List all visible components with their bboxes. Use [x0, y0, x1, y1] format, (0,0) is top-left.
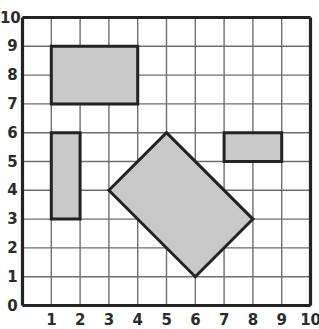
x-axis-tick-label-4: 4	[133, 313, 143, 328]
x-axis-tick-label-6: 6	[190, 313, 200, 328]
y-axis-tick-label-6: 6	[0, 125, 18, 140]
x-axis-tick-label-9: 9	[277, 313, 287, 328]
y-axis-tick-label-9: 9	[0, 39, 18, 54]
y-axis-tick-label-7: 7	[0, 96, 18, 111]
x-axis-tick-label-7: 7	[219, 313, 229, 328]
large-rectangle	[51, 46, 137, 104]
x-axis-tick-label-3: 3	[104, 313, 114, 328]
y-axis-tick-label-8: 8	[0, 68, 18, 83]
y-axis-tick-label-2: 2	[0, 240, 18, 255]
x-axis-tick-label-10: 10	[300, 313, 319, 328]
x-axis-tick-label-5: 5	[161, 313, 171, 328]
y-axis-tick-label-3: 3	[0, 212, 18, 227]
y-axis-tick-label-5: 5	[0, 154, 18, 169]
x-axis-tick-label-2: 2	[75, 313, 85, 328]
grid-plot-canvas	[0, 0, 319, 329]
y-axis-tick-label-0: 0	[0, 298, 18, 313]
y-axis-tick-label-1: 1	[0, 269, 18, 284]
x-axis-tick-label-8: 8	[248, 313, 258, 328]
coordinate-grid-figure: 012345678910 12345678910	[0, 0, 319, 329]
y-axis-tick-label-4: 4	[0, 183, 18, 198]
small-wide-rectangle	[224, 133, 282, 162]
tall-thin-rectangle	[51, 133, 80, 219]
x-axis-tick-label-1: 1	[46, 313, 56, 328]
y-axis-tick-label-10: 10	[0, 10, 18, 25]
